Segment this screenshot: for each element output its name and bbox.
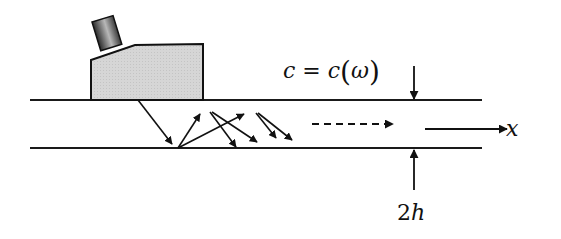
formula-lhs: c = c [283,58,340,83]
transducer-head-icon [92,16,122,51]
formula-close-paren: ) [369,55,380,88]
thickness-variable: h [411,200,425,225]
incident-ray-arrow [138,100,172,144]
x-axis-label: x [506,116,518,141]
transducer-wedge-icon [91,44,203,100]
thickness-number: 2 [397,200,411,225]
transducer [91,16,203,100]
guided-wave-diagram [0,0,561,239]
formula-omega: ω [351,58,369,83]
formula-open-paren: ( [340,55,351,88]
thickness-label: 2h [397,200,425,225]
velocity-dispersion-label: c = c(ω) [283,55,380,88]
reflected-rays [178,112,292,148]
